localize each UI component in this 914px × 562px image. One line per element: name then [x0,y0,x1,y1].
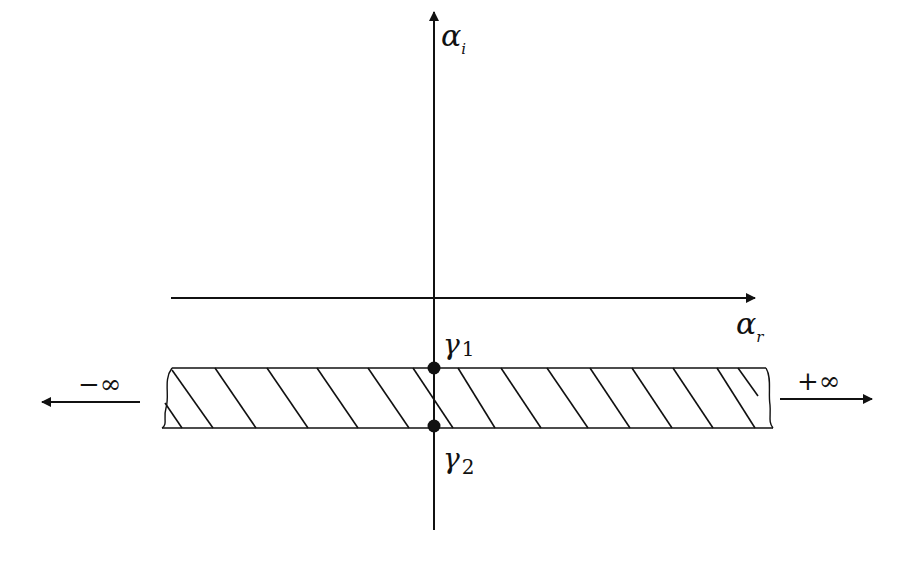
minus-infinity-label: −∞ [78,369,121,399]
hatched-strip [162,368,773,428]
alpha-r-label: αr [736,306,764,346]
gamma2-point [428,420,441,433]
plus-infinity-label: +∞ [797,366,840,396]
alpha-i-label: αi [441,18,466,58]
gamma1-label: γ1 [443,328,474,361]
gamma1-point [428,362,441,375]
diagram-canvas: αi αr γ1 γ2 −∞ +∞ [0,0,914,562]
gamma2-label: γ2 [443,442,474,479]
